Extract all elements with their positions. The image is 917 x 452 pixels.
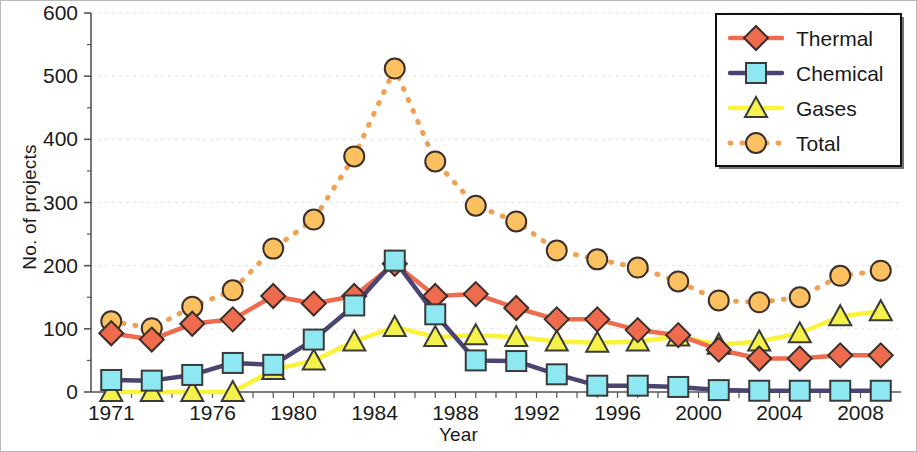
y-tick-label: 600: [43, 1, 78, 24]
legend-label: Total: [796, 132, 840, 155]
markers-gases: [100, 300, 892, 401]
data-point-marker: [344, 295, 364, 315]
x-tick-label: 1988: [432, 401, 479, 424]
data-point-marker: [587, 376, 607, 396]
data-point-marker: [709, 380, 729, 400]
chart-legend: ThermalChemicalGasesTotal: [716, 14, 904, 169]
x-axis-title: Year: [0, 424, 917, 446]
x-tick-label: 1984: [351, 401, 398, 424]
data-point-marker: [425, 151, 445, 171]
data-point-marker: [303, 349, 325, 369]
y-tick-label: 0: [66, 380, 78, 403]
data-point-marker: [746, 63, 766, 83]
markers-chemical: [101, 251, 891, 401]
data-point-marker: [101, 370, 121, 390]
data-point-marker: [628, 258, 648, 278]
y-axis-title: No. of projects: [19, 97, 41, 317]
data-point-marker: [261, 284, 285, 308]
legend-item-chemical[interactable]: Chemical: [730, 62, 884, 85]
y-tick-label: 100: [43, 317, 78, 340]
x-tick-label: 2000: [675, 401, 722, 424]
data-point-marker: [344, 146, 364, 166]
y-tick-label: 200: [43, 254, 78, 277]
data-point-marker: [709, 290, 729, 310]
data-point-marker: [302, 292, 326, 316]
legend-item-thermal[interactable]: Thermal: [730, 26, 873, 50]
x-tick-label: 1971: [88, 401, 135, 424]
data-point-marker: [223, 353, 243, 373]
x-tick-label: 1992: [513, 401, 560, 424]
data-point-marker: [668, 377, 688, 397]
data-point-marker: [628, 376, 648, 396]
chart-container: 0100200300400500600 19711976198019841988…: [0, 0, 917, 452]
data-point-marker: [545, 307, 569, 331]
x-tick-label: 2004: [756, 401, 803, 424]
data-point-marker: [668, 271, 688, 291]
data-point-marker: [547, 364, 567, 384]
data-point-marker: [385, 251, 405, 271]
data-point-marker: [871, 261, 891, 281]
data-point-marker: [425, 304, 445, 324]
x-tick-label: 1996: [594, 401, 641, 424]
data-point-marker: [788, 347, 812, 371]
data-point-marker: [869, 343, 893, 367]
data-point-marker: [263, 239, 283, 259]
legend-label: Gases: [796, 97, 857, 120]
data-point-marker: [180, 312, 204, 336]
data-point-marker: [506, 351, 526, 371]
legend-label: Chemical: [796, 62, 884, 85]
data-point-marker: [385, 59, 405, 79]
data-point-marker: [790, 381, 810, 401]
data-point-marker: [746, 133, 766, 153]
data-point-marker: [587, 249, 607, 269]
x-tick-label: 1976: [189, 401, 236, 424]
data-point-marker: [384, 316, 406, 336]
data-point-marker: [830, 266, 850, 286]
data-point-marker: [182, 365, 202, 385]
data-point-marker: [749, 292, 769, 312]
data-point-marker: [871, 381, 891, 401]
data-point-marker: [585, 307, 609, 331]
line-chart-plot: 0100200300400500600 19711976198019841988…: [0, 0, 917, 452]
data-point-marker: [547, 241, 567, 261]
data-point-marker: [221, 307, 245, 331]
x-tick-label: 1980: [270, 401, 317, 424]
data-point-marker: [828, 343, 852, 367]
y-axis-ticks: 0100200300400500600: [43, 1, 91, 403]
data-point-marker: [749, 381, 769, 401]
legend-label: Thermal: [796, 27, 873, 50]
markers-thermal: [99, 252, 893, 371]
data-point-marker: [506, 211, 526, 231]
data-point-marker: [304, 330, 324, 350]
data-point-marker: [790, 287, 810, 307]
data-point-marker: [466, 196, 486, 216]
data-point-marker: [142, 371, 162, 391]
y-tick-label: 300: [43, 191, 78, 214]
y-tick-label: 400: [43, 127, 78, 150]
data-point-marker: [223, 280, 243, 300]
data-point-marker: [504, 296, 528, 320]
data-point-marker: [263, 355, 283, 375]
data-point-marker: [464, 282, 488, 306]
data-point-marker: [466, 350, 486, 370]
data-point-marker: [304, 210, 324, 230]
y-tick-label: 500: [43, 64, 78, 87]
x-tick-label: 2008: [837, 401, 884, 424]
data-point-marker: [830, 381, 850, 401]
